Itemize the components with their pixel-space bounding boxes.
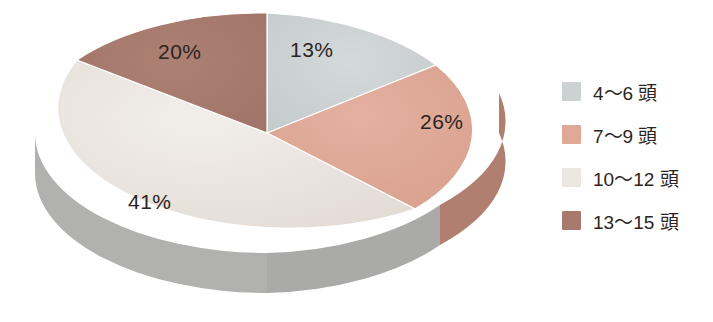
legend-label-13-15: 13〜15 頭 xyxy=(593,207,679,234)
slice-label-7-9: 26% xyxy=(420,110,464,134)
chart-legend: 4〜6 頭 7〜9 頭 10〜12 頭 13〜15 頭 xyxy=(562,70,710,242)
legend-label-7-9: 7〜9 頭 xyxy=(593,121,657,148)
slice-label-10-12: 41% xyxy=(128,190,172,214)
slice-label-13-15: 20% xyxy=(158,40,202,64)
legend-label-4-6: 4〜6 頭 xyxy=(593,78,657,105)
legend-swatch-13-15 xyxy=(562,211,581,230)
legend-item-10-12[interactable]: 10〜12 頭 xyxy=(562,156,710,199)
legend-item-7-9[interactable]: 7〜9 頭 xyxy=(562,113,710,156)
pie-chart-figure: 13% 26% 41% 20% 4〜6 頭 7〜9 頭 10〜12 頭 13〜1… xyxy=(0,0,713,322)
legend-label-10-12: 10〜12 頭 xyxy=(593,164,679,191)
legend-swatch-10-12 xyxy=(562,168,581,187)
pie-chart-svg xyxy=(0,0,540,322)
pie-top-face xyxy=(58,13,473,228)
legend-item-13-15[interactable]: 13〜15 頭 xyxy=(562,199,710,242)
chart-plot-area: 13% 26% 41% 20% xyxy=(0,0,540,322)
legend-swatch-4-6 xyxy=(562,82,581,101)
legend-item-4-6[interactable]: 4〜6 頭 xyxy=(562,70,710,113)
slice-label-4-6: 13% xyxy=(290,38,334,62)
legend-swatch-7-9 xyxy=(562,125,581,144)
